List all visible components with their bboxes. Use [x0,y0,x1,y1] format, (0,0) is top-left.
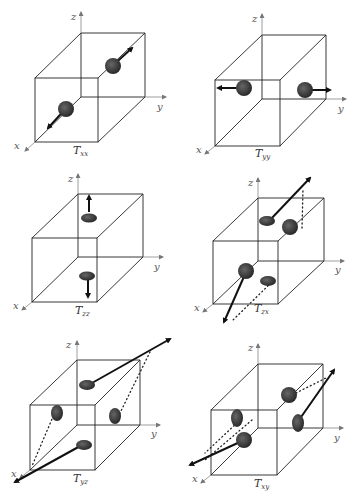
panel-tyy: z y x Tyy [196,13,346,161]
axis-label-y: y [334,264,341,275]
panel-txx: z y x Txx [14,11,166,158]
panel-title: Txx [73,144,88,158]
axis-label-z: z [70,11,77,22]
sphere [109,408,121,424]
axis-label-x: x [13,300,19,311]
force-arrow [270,178,310,220]
axis-label-y: y [333,432,340,443]
panel-tzx: z y x Tzx [194,177,344,322]
sphere [238,263,254,279]
axis-label-x: x [14,140,20,151]
axis-label-z: z [251,13,258,24]
axis-label-y: y [153,261,160,272]
panel-title: Txy [254,477,270,491]
cube [211,364,323,475]
force-arrow [299,370,334,420]
sphere [282,219,298,235]
sphere [51,405,63,421]
force-arrow [92,339,170,383]
sphere [259,216,275,226]
axes: z y x [196,13,346,155]
axis-label-z: z [247,342,254,353]
axis-label-y: y [156,101,163,112]
sphere [81,214,97,223]
sphere [79,272,95,281]
axis-label-x: x [11,468,17,479]
axis-label-x: x [192,473,198,484]
sphere [292,414,304,432]
axis-label-x: x [194,302,200,313]
sphere [105,58,121,74]
axis-label-y: y [150,428,157,439]
panel-tzz: z y x Tzz [13,173,163,318]
force-arrow [15,445,82,482]
panel-title: Tyy [255,147,271,161]
sphere [231,409,243,427]
panel-title: Tzz [75,304,90,318]
axis-label-y: y [337,103,344,114]
sphere [236,432,252,448]
axis-label-z: z [65,339,72,350]
panel-txy: z y x Txy [190,342,343,491]
panel-title: Tyz [73,472,88,486]
axis-label-z: z [247,177,254,188]
cube [30,360,140,470]
sphere [236,80,252,96]
sphere [260,276,276,286]
sphere [58,101,74,117]
force-arrow [224,272,246,322]
force-arrow [190,441,242,465]
axes: z y x [194,177,344,313]
cube [213,198,324,304]
sphere [297,82,313,98]
axis-label-x: x [196,144,202,155]
panel-tyz: z y x Tyz [11,339,170,486]
sphere [281,387,297,403]
axes: z y x [14,11,166,151]
stress-tensor-diagram: z y x Txx z y x Tyy [0,0,359,502]
sphere [79,380,95,390]
sphere [76,440,92,450]
axis-label-z: z [67,173,74,184]
axes: z y x [192,342,343,484]
